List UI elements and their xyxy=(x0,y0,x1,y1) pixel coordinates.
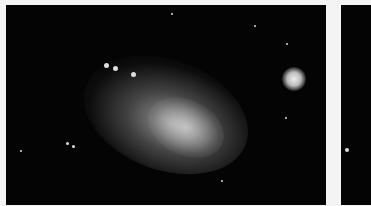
left-photo-panel xyxy=(6,5,326,205)
star xyxy=(254,25,256,27)
right-photo-panel xyxy=(341,5,371,205)
star xyxy=(131,72,136,77)
star xyxy=(286,43,288,45)
star xyxy=(66,142,69,145)
star xyxy=(72,145,75,148)
star xyxy=(345,148,349,152)
star xyxy=(171,13,173,15)
star xyxy=(113,66,118,71)
star xyxy=(104,63,109,68)
star xyxy=(285,117,287,119)
star xyxy=(221,180,223,182)
star xyxy=(20,150,22,152)
globular-cluster xyxy=(282,67,306,91)
